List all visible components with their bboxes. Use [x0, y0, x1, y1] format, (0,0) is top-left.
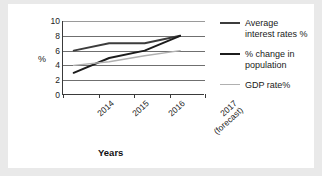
series-lines: [63, 21, 205, 95]
legend-item[interactable]: Average interest rates %: [220, 18, 314, 40]
y-tick-label: 4: [55, 61, 60, 70]
legend-label: Average interest rates %: [245, 18, 308, 40]
legend-item[interactable]: % change in population: [220, 49, 314, 71]
legend-item[interactable]: GDP rate%: [220, 80, 314, 91]
y-axis-title: %: [38, 54, 46, 64]
x-tick-label: 2016: [167, 99, 187, 119]
y-tick-label: 2: [55, 76, 60, 85]
chart-legend: Average interest rates %% change in popu…: [220, 18, 314, 100]
y-tick-label: 6: [55, 46, 60, 55]
x-tick-label: 2014: [96, 99, 116, 119]
chart-card: % 0246810 2014201520162017(forecast) Yea…: [8, 4, 314, 168]
legend-label: % change in population: [245, 49, 295, 71]
plot-frame: 0246810 2014201520162017(forecast): [62, 21, 204, 95]
legend-label: GDP rate%: [245, 80, 290, 91]
x-tick-label: 2017(forecast): [206, 99, 245, 137]
legend-line-icon: [220, 49, 240, 59]
x-tick-label: 2015: [131, 99, 151, 119]
y-tick-label: 8: [55, 32, 60, 41]
y-tick-label: 10: [51, 17, 60, 26]
y-tick-label: 0: [55, 91, 60, 100]
x-tick-mark: [205, 94, 206, 98]
x-axis-title: Years: [98, 147, 123, 158]
series-line: [74, 36, 180, 73]
legend-line-icon: [220, 18, 240, 28]
chart-area: % 0246810 2014201520162017(forecast) Yea…: [8, 4, 218, 168]
series-line: [74, 51, 180, 66]
legend-line-icon: [220, 80, 240, 90]
